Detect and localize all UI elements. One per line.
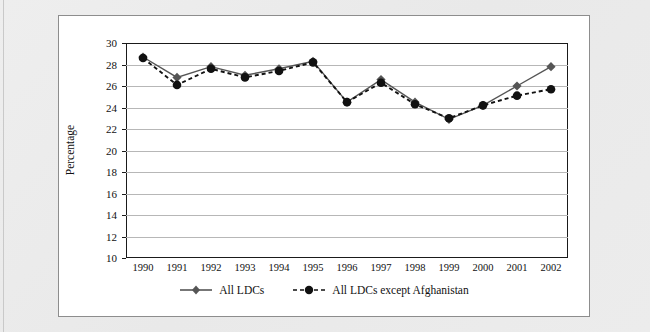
legend-item-all-ldcs: All LDCs <box>179 284 264 296</box>
legend-item-all-ldcs-except-afghanistan: All LDCs except Afghanistan <box>292 284 468 296</box>
data-point-marker <box>411 100 420 109</box>
data-point-marker <box>512 81 521 90</box>
data-point-marker <box>207 65 216 74</box>
data-point-marker <box>445 114 454 123</box>
data-point-marker <box>275 67 284 76</box>
data-point-marker <box>139 54 148 63</box>
solid-diamond-legend-icon <box>179 284 213 296</box>
line-chart: Percentage 1012141618202224262830 199019… <box>59 16 589 316</box>
data-point-marker <box>377 78 386 87</box>
data-point-marker <box>241 73 250 82</box>
legend-label-all-ldcs: All LDCs <box>219 284 264 296</box>
data-point-marker <box>309 58 318 67</box>
data-point-marker <box>479 101 488 110</box>
page-background: Percentage 1012141618202224262830 199019… <box>0 0 650 332</box>
series-line-1 <box>143 57 551 119</box>
data-point-marker <box>513 91 522 100</box>
data-point-marker <box>546 62 555 71</box>
series-lines <box>59 16 591 318</box>
legend-label-all-ldcs-except-afghanistan: All LDCs except Afghanistan <box>332 284 468 296</box>
figure-panel: Percentage 1012141618202224262830 199019… <box>58 15 590 317</box>
data-point-marker <box>343 98 352 107</box>
chart-legend: All LDCs All LDCs except Afghanistan <box>59 284 589 296</box>
dashed-circle-legend-icon <box>292 284 326 296</box>
data-point-marker <box>547 85 556 94</box>
series-line-2 <box>143 58 551 118</box>
data-point-marker <box>173 81 182 90</box>
